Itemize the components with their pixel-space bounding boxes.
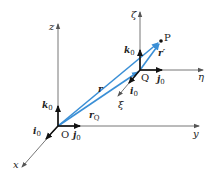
label-xi: ξ	[118, 99, 124, 110]
label-rQ: rQ	[89, 110, 100, 122]
label-j0-O: j0	[71, 130, 81, 142]
label-i0-Q: i0	[130, 86, 138, 98]
label-zeta: ζ	[131, 9, 137, 20]
position-vectors	[58, 43, 159, 126]
label-y: y	[192, 128, 199, 139]
vector-r-prime	[140, 44, 159, 70]
fixed-frame	[22, 24, 199, 167]
label-O: O	[61, 129, 69, 140]
label-x: x	[13, 159, 19, 170]
vector-r	[58, 43, 158, 126]
label-i0-O: i0	[33, 126, 41, 138]
kinematics-diagram: z y x ζ η ξ O Q P k0 j0 i0 k0 j0 i0 r rQ…	[0, 0, 216, 179]
labels: z y x ζ η ξ O Q P k0 j0 i0 k0 j0 i0 r rQ…	[13, 9, 204, 170]
label-P: P	[164, 32, 171, 43]
label-k0-O: k0	[42, 100, 53, 112]
i0-vector-O	[46, 126, 58, 139]
point-P	[159, 39, 163, 43]
label-k0-Q: k0	[124, 45, 135, 57]
label-z: z	[48, 21, 55, 32]
label-j0-Q: j0	[155, 74, 165, 86]
label-eta: η	[198, 71, 204, 82]
label-Q: Q	[141, 72, 149, 83]
label-r-prime: r′	[158, 48, 166, 58]
